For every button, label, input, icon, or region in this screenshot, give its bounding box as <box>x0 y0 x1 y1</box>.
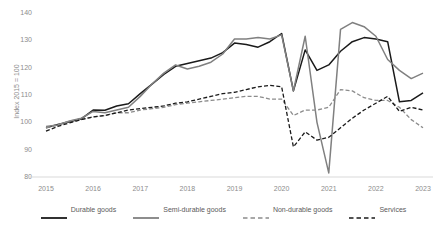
series-line-semi-durable-goods <box>46 23 423 173</box>
series-line-non-durable-goods <box>46 90 423 128</box>
chart-legend: Durable goodsSemi-durable goodsNon-durab… <box>0 206 447 213</box>
series-line-durable-goods <box>46 34 423 128</box>
legend-swatch-icon <box>243 207 269 213</box>
series-line-services <box>46 85 423 146</box>
plot-area <box>0 0 447 227</box>
legend-item-semi-durable-goods[interactable]: Semi-durable goods <box>133 206 226 213</box>
legend-item-services[interactable]: Services <box>349 206 406 213</box>
legend-item-durable-goods[interactable]: Durable goods <box>41 206 117 213</box>
legend-swatch-icon <box>41 207 67 213</box>
legend-swatch-icon <box>133 207 159 213</box>
line-chart: Index 2015 = 100 8090100110120130140 201… <box>0 0 447 227</box>
legend-label: Services <box>379 206 406 213</box>
legend-label: Semi-durable goods <box>163 206 226 213</box>
legend-label: Durable goods <box>71 206 117 213</box>
legend-item-non-durable-goods[interactable]: Non-durable goods <box>243 206 333 213</box>
legend-swatch-icon <box>349 207 375 213</box>
legend-label: Non-durable goods <box>273 206 333 213</box>
